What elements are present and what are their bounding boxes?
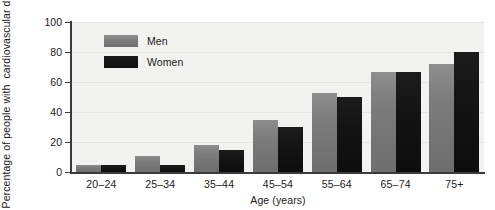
bar-women bbox=[454, 52, 479, 172]
bar-men bbox=[312, 93, 337, 173]
x-axis-tick-label: 75+ bbox=[426, 178, 482, 194]
legend-label-men: Men bbox=[147, 35, 168, 47]
bar-women bbox=[101, 165, 126, 173]
bar-chart-figure: Percentage of people with cardiovascular… bbox=[0, 0, 495, 210]
bar-women bbox=[278, 127, 303, 172]
x-axis-tick-label: 65–74 bbox=[368, 178, 424, 194]
x-axis-tick-label: 20–24 bbox=[73, 178, 129, 194]
bar-women bbox=[396, 72, 421, 173]
bar-men bbox=[194, 145, 219, 172]
bar-men bbox=[253, 120, 278, 173]
bar-group bbox=[253, 22, 303, 172]
y-axis-tick-label: 80 bbox=[36, 47, 62, 57]
bar-women bbox=[160, 165, 185, 173]
y-axis-tick-label: 100 bbox=[36, 17, 62, 27]
bar-men bbox=[76, 165, 101, 173]
bar-group bbox=[371, 22, 421, 172]
bar-men bbox=[429, 64, 454, 172]
bar-group bbox=[429, 22, 479, 172]
y-axis-tick-label: 20 bbox=[36, 137, 62, 147]
legend-swatch-men bbox=[104, 35, 138, 47]
bar-group bbox=[194, 22, 244, 172]
y-axis-title-line-2: cardiovascular disease bbox=[0, 0, 13, 82]
x-axis-tick-label: 35–44 bbox=[191, 178, 247, 194]
y-axis-title-line-1: Percentage of people with bbox=[0, 82, 13, 210]
bar-women bbox=[219, 150, 244, 173]
bar-men bbox=[371, 72, 396, 173]
bar-men bbox=[135, 156, 160, 173]
bar-women bbox=[337, 97, 362, 172]
x-axis-title: Age (years) bbox=[72, 194, 484, 206]
y-axis-tick-label: 60 bbox=[36, 77, 62, 87]
x-axis-tick-label: 25–34 bbox=[132, 178, 188, 194]
legend-label-women: Women bbox=[147, 56, 184, 68]
x-axis-tick-label: 45–54 bbox=[250, 178, 306, 194]
x-axis-tick-labels: 20–2425–3435–4445–5455–6465–7475+ bbox=[72, 178, 484, 194]
legend-swatch-women bbox=[104, 56, 138, 68]
x-axis-line bbox=[70, 172, 485, 174]
x-axis-tick-label: 55–64 bbox=[309, 178, 365, 194]
y-axis-tick-label: 40 bbox=[36, 107, 62, 117]
y-axis-title: Percentage of people with cardiovascular… bbox=[0, 3, 36, 175]
legend: Men Women bbox=[104, 32, 184, 74]
legend-item-women: Women bbox=[104, 53, 184, 70]
legend-item-men: Men bbox=[104, 32, 184, 49]
y-axis-tick-labels: 020406080100 bbox=[36, 0, 62, 210]
y-axis-tick-label: 0 bbox=[36, 167, 62, 177]
bar-group bbox=[312, 22, 362, 172]
